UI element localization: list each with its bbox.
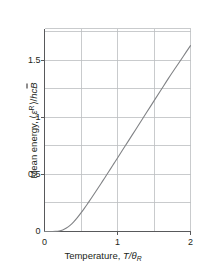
gridlines: [45, 29, 191, 232]
x-axis-denominator-subscript: R: [137, 255, 142, 262]
y-axis-epsilon: ε: [28, 110, 39, 114]
y-axis-epsilon-superscript: R: [28, 105, 35, 110]
x-axis-label-name: Temperature,: [64, 250, 123, 261]
y-axis-slash: /: [28, 99, 39, 102]
y-tick-label: 0: [3, 227, 41, 236]
x-tick-label: 0: [30, 238, 60, 247]
y-axis-label-name: Mean energy,: [28, 119, 39, 179]
y-axis-hc: hc: [28, 89, 39, 99]
y-axis-label: Mean energy, ⟨εR⟩/hcB: [28, 46, 39, 216]
chart-figure: 00.511.5012 Temperature, T/θR Mean energ…: [0, 0, 206, 272]
y-axis-b-tilde: B: [28, 82, 39, 88]
y-axis-close-bracket: ⟩: [28, 101, 39, 105]
y-axis-open-bracket: ⟨: [28, 115, 39, 119]
axis-ticks: [41, 60, 191, 235]
x-tick-label: 1: [103, 238, 133, 247]
x-tick-label: 2: [176, 238, 206, 247]
x-axis-label: Temperature, T/θR: [0, 250, 206, 262]
